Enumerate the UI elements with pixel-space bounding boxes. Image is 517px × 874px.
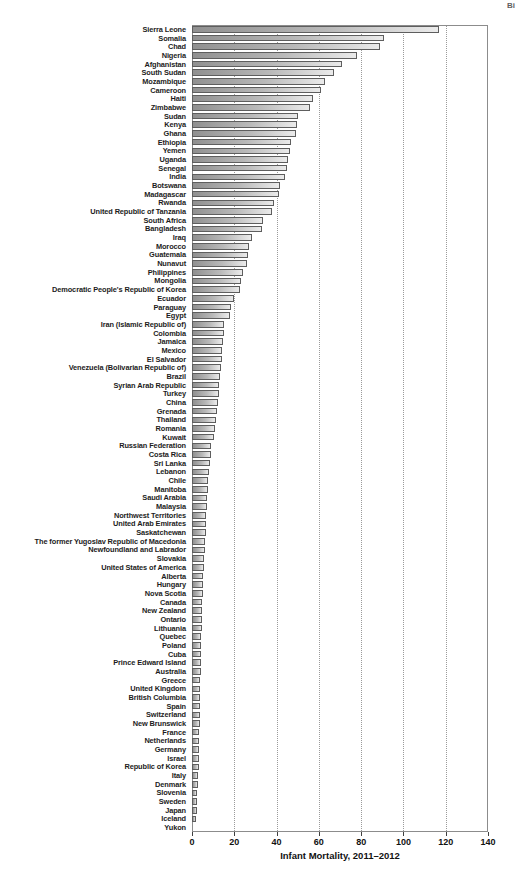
bar bbox=[192, 252, 248, 259]
bar-row: Madagascar bbox=[0, 190, 517, 199]
category-label: Switzerland bbox=[0, 711, 186, 720]
category-label: Nunavut bbox=[0, 259, 186, 268]
bar bbox=[192, 633, 201, 640]
bar bbox=[192, 356, 222, 363]
bar bbox=[192, 625, 202, 632]
bar bbox=[192, 182, 280, 189]
bar bbox=[192, 382, 219, 389]
bar bbox=[192, 243, 249, 250]
category-label: Iraq bbox=[0, 233, 186, 242]
category-label: Slovenia bbox=[0, 789, 186, 798]
bar-row: Lebanon bbox=[0, 468, 517, 477]
bar-row: Italy bbox=[0, 771, 517, 780]
bar bbox=[192, 330, 224, 337]
bar-row: Australia bbox=[0, 667, 517, 676]
category-label: Syrian Arab Republic bbox=[0, 381, 186, 390]
bar-row: Kenya bbox=[0, 120, 517, 129]
bar-row: Republic of Korea bbox=[0, 763, 517, 772]
bar bbox=[192, 694, 200, 701]
bar-row: Spain bbox=[0, 702, 517, 711]
bar bbox=[192, 113, 298, 120]
bar-row: Hungary bbox=[0, 580, 517, 589]
bar-row: Rwanda bbox=[0, 199, 517, 208]
x-tick-label: 0 bbox=[177, 837, 207, 847]
bar bbox=[192, 434, 214, 441]
bar bbox=[192, 269, 243, 276]
bar-row: Greece bbox=[0, 676, 517, 685]
bar-row: Northwest Territories bbox=[0, 511, 517, 520]
bar bbox=[192, 52, 357, 59]
bar bbox=[192, 781, 198, 788]
bar-row: Prince Edward Island bbox=[0, 658, 517, 667]
bar-row: Switzerland bbox=[0, 711, 517, 720]
bar bbox=[192, 69, 334, 76]
bar-row: Saudi Arabia bbox=[0, 494, 517, 503]
category-label: Ethiopia bbox=[0, 138, 186, 147]
category-label: Yemen bbox=[0, 146, 186, 155]
bar-row: Syrian Arab Republic bbox=[0, 381, 517, 390]
category-label: Cuba bbox=[0, 650, 186, 659]
category-label: New Brunswick bbox=[0, 719, 186, 728]
category-label: Zimbabwe bbox=[0, 103, 186, 112]
x-tick-mark bbox=[403, 832, 404, 836]
bar-row: Egypt bbox=[0, 311, 517, 320]
category-label: Canada bbox=[0, 598, 186, 607]
category-label: Saskatchewan bbox=[0, 528, 186, 537]
bar-row: South Africa bbox=[0, 216, 517, 225]
category-label: Afghanistan bbox=[0, 60, 186, 69]
bar bbox=[192, 460, 210, 467]
x-tick-mark bbox=[277, 832, 278, 836]
category-label: Uganda bbox=[0, 155, 186, 164]
bar-row: United Arab Emirates bbox=[0, 520, 517, 529]
bar-row: Iceland bbox=[0, 815, 517, 824]
bar bbox=[192, 191, 279, 198]
category-label: Sri Lanka bbox=[0, 459, 186, 468]
category-label: Costa Rica bbox=[0, 450, 186, 459]
bar-row: Yemen bbox=[0, 146, 517, 155]
bar bbox=[192, 104, 310, 111]
bar bbox=[192, 651, 201, 658]
chart-figure: Bi Infant Mortality, 2011–2012 020406080… bbox=[0, 0, 517, 874]
category-label: Botswana bbox=[0, 181, 186, 190]
bar-row: Nigeria bbox=[0, 51, 517, 60]
category-label: Nigeria bbox=[0, 51, 186, 60]
category-label: Saudi Arabia bbox=[0, 494, 186, 503]
bar-row: Chad bbox=[0, 42, 517, 51]
bar-row: Slovakia bbox=[0, 554, 517, 563]
category-label: Hungary bbox=[0, 580, 186, 589]
bar bbox=[192, 390, 219, 397]
bar bbox=[192, 686, 200, 693]
category-label: Morocco bbox=[0, 242, 186, 251]
bar bbox=[192, 581, 203, 588]
bar-row: Cuba bbox=[0, 650, 517, 659]
bar bbox=[192, 469, 209, 476]
bar-row: Zimbabwe bbox=[0, 103, 517, 112]
bar-row: Sweden bbox=[0, 797, 517, 806]
bar bbox=[192, 208, 272, 215]
category-label: Mongolia bbox=[0, 277, 186, 286]
bar-row: China bbox=[0, 398, 517, 407]
bar-row: Denmark bbox=[0, 780, 517, 789]
bar-row: Nunavut bbox=[0, 259, 517, 268]
bar-row: Democratic People's Republic of Korea bbox=[0, 285, 517, 294]
bar bbox=[192, 590, 203, 597]
bar bbox=[192, 304, 231, 311]
category-label: Turkey bbox=[0, 389, 186, 398]
category-label: Denmark bbox=[0, 780, 186, 789]
x-tick-mark bbox=[234, 832, 235, 836]
bar-row: The former Yugoslav Republic of Macedoni… bbox=[0, 537, 517, 546]
category-label: France bbox=[0, 728, 186, 737]
category-label: Iran (Islamic Republic of) bbox=[0, 320, 186, 329]
category-label: Grenada bbox=[0, 407, 186, 416]
bar bbox=[192, 35, 384, 42]
bar bbox=[192, 373, 220, 380]
bar-row: Ecuador bbox=[0, 294, 517, 303]
bar-row: Iran (Islamic Republic of) bbox=[0, 320, 517, 329]
bar bbox=[192, 677, 200, 684]
bar-row: El Salvador bbox=[0, 355, 517, 364]
bar-row: Sudan bbox=[0, 112, 517, 121]
x-tick-label: 100 bbox=[388, 837, 418, 847]
bar bbox=[192, 573, 203, 580]
bar-row: Poland bbox=[0, 641, 517, 650]
bar bbox=[192, 295, 234, 302]
